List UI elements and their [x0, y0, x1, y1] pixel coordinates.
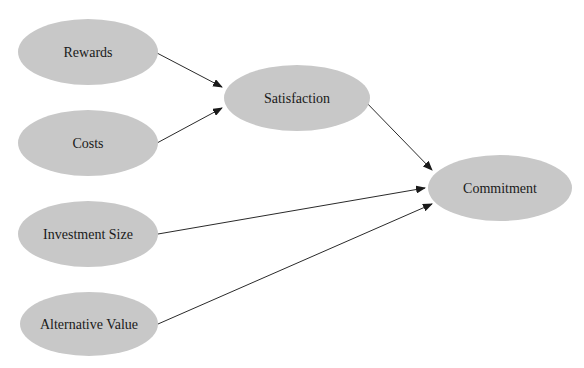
node-satisfaction: Satisfaction	[224, 65, 370, 131]
node-commitment: Commitment	[428, 155, 572, 221]
nodes-group: RewardsCostsSatisfactionCommitmentInvest…	[18, 19, 572, 356]
arrow-satisfaction-to-commitment	[362, 98, 432, 170]
arrow-costs-to-satisfaction	[157, 108, 222, 143]
node-label: Alternative Value	[40, 317, 138, 332]
investment-model-diagram: RewardsCostsSatisfactionCommitmentInvest…	[0, 0, 584, 368]
node-label: Investment Size	[43, 227, 133, 242]
node-costs: Costs	[18, 110, 158, 176]
arrow-rewards-to-satisfaction	[157, 53, 222, 87]
node-label: Costs	[72, 136, 103, 151]
node-alternative-value: Alternative Value	[20, 292, 158, 356]
node-label: Rewards	[64, 45, 113, 60]
node-investment-size: Investment Size	[18, 201, 158, 267]
arrow-alternative-value-to-commitment	[158, 204, 432, 324]
node-rewards: Rewards	[18, 19, 158, 85]
arrow-investment-size-to-commitment	[158, 188, 425, 234]
node-label: Satisfaction	[264, 91, 330, 106]
node-label: Commitment	[463, 181, 537, 196]
